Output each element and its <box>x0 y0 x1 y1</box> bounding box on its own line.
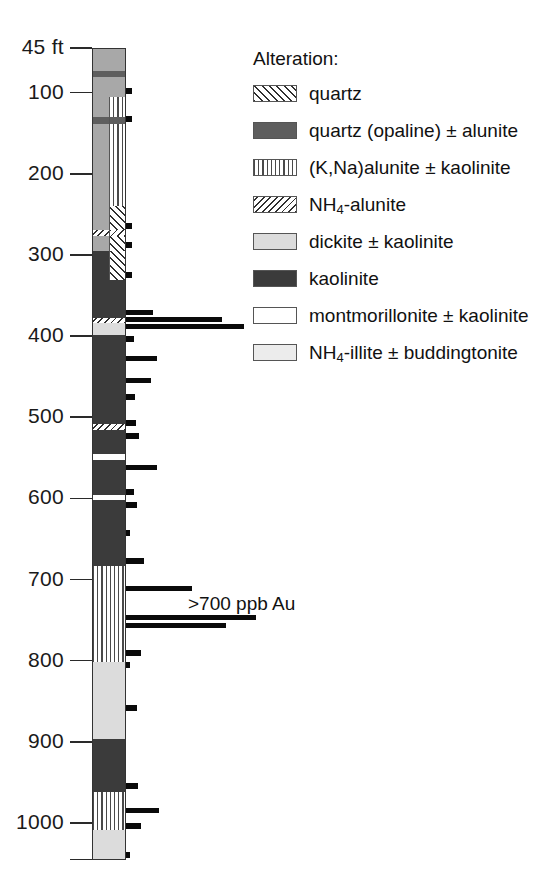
legend-swatch-opaline <box>253 122 297 139</box>
gold-assay-bar <box>126 223 132 229</box>
alteration-band-quartz <box>109 206 125 230</box>
gold-assay-bar <box>126 586 192 591</box>
legend-swatch-knaalunite <box>253 159 297 176</box>
legend-item-label: kaolinite <box>309 267 379 290</box>
alteration-band-montmorillonite <box>93 124 109 206</box>
legend-swatch-dickite <box>253 233 297 250</box>
legend-title: Alteration: <box>253 48 339 70</box>
gold-assay-bar <box>126 465 157 470</box>
gold-assay-bar <box>126 558 144 564</box>
legend-item-label: dickite ± kaolinite <box>309 230 454 253</box>
alteration-band-knaalunite <box>93 792 125 831</box>
gold-assay-bar <box>126 530 130 536</box>
gold-assay-bar <box>126 356 157 361</box>
gold-assay-bar <box>126 650 141 656</box>
gold-assay-bar <box>126 272 132 278</box>
alteration-band-knaalunite <box>109 97 125 117</box>
axis-tick <box>70 254 92 256</box>
axis-tick-label: 400 <box>0 323 64 347</box>
alteration-band-quartz <box>109 251 125 280</box>
alteration-band-kaolinite <box>93 335 125 424</box>
alteration-band-kaolinite <box>93 739 125 792</box>
gold-threshold-annotation: >700 ppb Au <box>188 593 295 615</box>
gold-assay-bar <box>126 242 132 248</box>
drill-core-column <box>92 48 126 860</box>
legend-swatch-kaolinite <box>253 270 297 287</box>
gold-assay-bar <box>126 317 222 322</box>
axis-tick-label: 300 <box>0 242 64 266</box>
axis-tick <box>70 416 92 418</box>
legend-item-label: quartz (opaline) ± alunite <box>309 119 518 142</box>
gold-assay-bar <box>126 336 134 342</box>
legend-item-label: NH4-illite ± buddingtonite <box>309 341 518 366</box>
axis-tick-label: 100 <box>0 80 64 104</box>
axis-tick <box>70 741 92 743</box>
alteration-band-dickite <box>93 323 125 334</box>
alteration-band-montmorillonite <box>93 206 109 230</box>
gold-assay-bar <box>126 662 130 668</box>
legend-swatch-illite <box>253 344 297 361</box>
gold-assay-bar <box>126 324 244 329</box>
axis-tick-label: 200 <box>0 161 64 185</box>
axis-tick <box>70 579 92 581</box>
gold-assay-bar <box>126 489 134 495</box>
gold-assay-bar <box>126 808 159 813</box>
gold-assay-bar <box>126 88 132 94</box>
axis-tick <box>70 47 92 49</box>
legend-item-label: NH4-alunite <box>309 193 406 218</box>
legend-item-label: quartz <box>309 82 362 105</box>
axis-tick-label: 1000 <box>0 810 64 834</box>
hole-bottom-line <box>70 859 92 861</box>
alteration-band-knaalunite <box>109 124 125 206</box>
alteration-band-kaolinite <box>93 251 109 280</box>
axis-tick-label: 700 <box>0 567 64 591</box>
gold-assay-bar <box>126 433 139 439</box>
gold-assay-bar <box>126 615 256 620</box>
alteration-band-dickite <box>93 662 125 739</box>
gold-assay-bar <box>126 623 226 628</box>
gold-assay-bar <box>126 420 136 426</box>
alteration-band-dickite <box>93 830 125 859</box>
alteration-band-kaolinite <box>93 460 125 495</box>
axis-tick <box>70 173 92 175</box>
axis-tick-label: 500 <box>0 404 64 428</box>
alteration-band-montmorillonite <box>93 77 125 96</box>
alteration-band-knaalunite <box>93 566 125 662</box>
alteration-band-montmorillonite <box>93 49 125 71</box>
alteration-band-kaolinite <box>93 500 125 566</box>
legend-item-label: (K,Na)alunite ± kaolinite <box>309 156 511 179</box>
alteration-band-montmorillonite <box>93 97 109 117</box>
axis-tick <box>70 660 92 662</box>
axis-tick <box>70 822 92 824</box>
alteration-band-kaolinite <box>93 430 125 454</box>
gold-assay-bar <box>126 823 141 829</box>
axis-tick-label: 900 <box>0 729 64 753</box>
gold-assay-bar <box>126 116 132 122</box>
alteration-band-kaolinite <box>93 280 125 317</box>
axis-tick <box>70 335 92 337</box>
legend-swatch-quartz <box>253 85 297 102</box>
gold-assay-bar <box>126 394 135 400</box>
gold-assay-bar <box>126 310 153 315</box>
gold-assay-bar <box>126 705 137 711</box>
axis-tick-label: 45 ft <box>0 35 64 59</box>
column-split-divider <box>109 97 110 280</box>
axis-tick-label: 600 <box>0 485 64 509</box>
axis-tick <box>70 92 92 94</box>
gold-assay-bar <box>126 378 151 383</box>
axis-tick <box>70 498 92 500</box>
alteration-band-montmorillonite <box>93 236 109 251</box>
drill-log-figure: 45 ft1002003004005006007008009001000 >70… <box>0 0 555 893</box>
alteration-band-quartz <box>109 236 125 251</box>
legend-swatch-montmor <box>253 307 297 324</box>
gold-assay-bar <box>126 783 138 789</box>
legend-item-label: montmorillonite ± kaolinite <box>309 304 529 327</box>
axis-tick-label: 800 <box>0 648 64 672</box>
legend-swatch-nh4alunite <box>253 196 297 213</box>
gold-assay-bar <box>126 852 130 858</box>
gold-assay-bar <box>126 502 137 508</box>
